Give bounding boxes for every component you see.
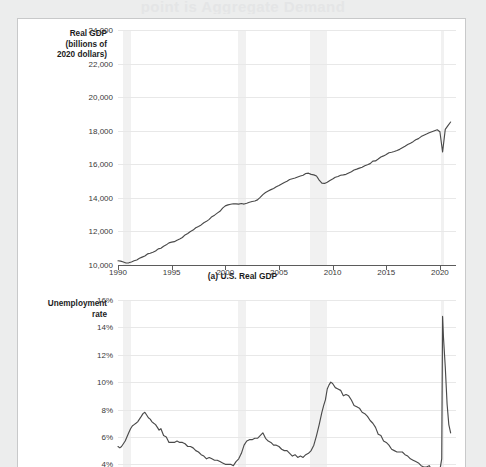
- y-axis-tick-label: 14,000: [74, 193, 113, 202]
- y-axis-tick-label: 18,000: [74, 126, 113, 135]
- x-axis-tick-label: 2000: [216, 268, 234, 277]
- y-axis-tick-label: 16%: [74, 296, 113, 305]
- series-layer: [118, 30, 456, 267]
- y-axis-tick-label: 12%: [74, 350, 113, 359]
- y-axis-tick-label: 4%: [74, 460, 113, 467]
- y-axis-tick-label: 8%: [74, 405, 113, 414]
- axis-label-line: rate: [30, 310, 107, 321]
- data-line: [118, 122, 451, 263]
- y-axis-tick-label: 20,000: [74, 93, 113, 102]
- figure-panel-a: Real GDP(billions of2020 dollars) (a) U.…: [18, 19, 466, 284]
- ghost-heading-bleedthrough: point is Aggregate Demand: [0, 0, 486, 14]
- panel-a-plot-area: [118, 30, 456, 265]
- data-line: [118, 316, 451, 467]
- y-axis-tick-label: 10%: [74, 378, 113, 387]
- x-axis-tick-label: 2015: [377, 268, 395, 277]
- y-axis-tick-label: 6%: [74, 432, 113, 441]
- x-axis-tick-label: 2020: [431, 268, 449, 277]
- y-axis-tick-label: 22,000: [74, 59, 113, 68]
- y-axis-tick-label: 24,000: [74, 26, 113, 35]
- panel-a-caption: (a) U.S. Real GDP: [18, 271, 466, 281]
- x-axis-tick-label: 2005: [270, 268, 288, 277]
- x-axis-tick-label: 1995: [163, 268, 181, 277]
- figure-panel-b: Unemploymentrate 4%6%8%10%12%14%16%: [18, 287, 466, 467]
- x-axis-tick-label: 2010: [324, 268, 342, 277]
- textbook-page: Real GDP(billions of2020 dollars) (a) U.…: [17, 18, 466, 467]
- series-layer: [118, 300, 456, 467]
- panel-b-plot-area: [118, 300, 456, 467]
- y-axis-tick-label: 10,000: [74, 261, 113, 270]
- axis-label-line: (billions of: [30, 40, 107, 51]
- y-axis-tick-label: 16,000: [74, 160, 113, 169]
- y-axis-tick-label: 14%: [74, 323, 113, 332]
- x-axis-tick-label: 1990: [109, 268, 127, 277]
- y-axis-tick-label: 12,000: [74, 227, 113, 236]
